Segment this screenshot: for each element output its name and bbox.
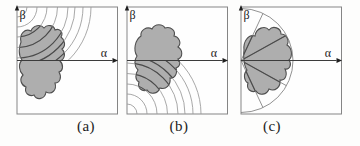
panel-b: βα: [124, 4, 230, 117]
panel-c-plot: βα: [238, 4, 344, 117]
panel-a: βα: [14, 4, 120, 117]
panel-c: βα: [238, 4, 344, 117]
beta-axis-label: β: [130, 8, 136, 22]
alpha-axis-label: α: [211, 46, 218, 60]
alpha-axis-label: α: [325, 46, 332, 60]
panel-b-caption: (b): [149, 118, 209, 135]
figure-canvas: βα βα βα (a) (b) (c): [0, 0, 360, 146]
panel-a-caption: (a): [56, 118, 116, 135]
beta-axis-label: β: [244, 8, 250, 22]
beta-axis-label: β: [20, 8, 26, 22]
panel-c-caption: (c): [242, 118, 302, 135]
alpha-axis-label: α: [101, 46, 108, 60]
panel-b-plot: βα: [124, 4, 230, 117]
panel-a-plot: βα: [14, 4, 120, 117]
